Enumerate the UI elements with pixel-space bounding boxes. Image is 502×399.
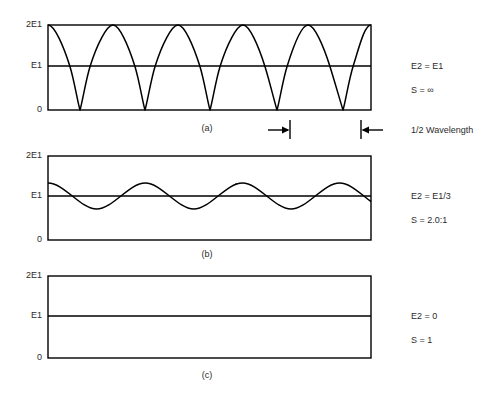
panel-c-caption: (c) — [177, 371, 237, 380]
panel-a-annotation-e2: E2 = E1 — [411, 62, 443, 71]
half-wavelength-marker: 1/2 Wavelength — [0, 114, 502, 142]
panel-c-annotation-swr: S = 1 — [411, 336, 432, 345]
panel-b-annotation-swr: S = 2.0:1 — [411, 216, 447, 225]
panel-c-plot — [0, 265, 502, 399]
standing-wave-figure: 2E1 E1 0 (a) E2 = E1 S = ∞ 1/2 — [0, 0, 502, 399]
panel-b-caption: (b) — [177, 250, 237, 259]
half-wavelength-label: 1/2 Wavelength — [411, 126, 473, 135]
panel-c-annotation-e2: E2 = 0 — [411, 312, 437, 321]
panel-a-annotation-swr: S = ∞ — [411, 86, 434, 95]
panel-b-plot — [0, 140, 502, 270]
panel-b-annotation-e2: E2 = E1/3 — [411, 192, 451, 201]
panel-b: 2E1 E1 0 (b) E2 = E1/3 S = 2.0:1 — [0, 140, 502, 270]
panel-c: 2E1 E1 0 (c) E2 = 0 S = 1 — [0, 265, 502, 399]
